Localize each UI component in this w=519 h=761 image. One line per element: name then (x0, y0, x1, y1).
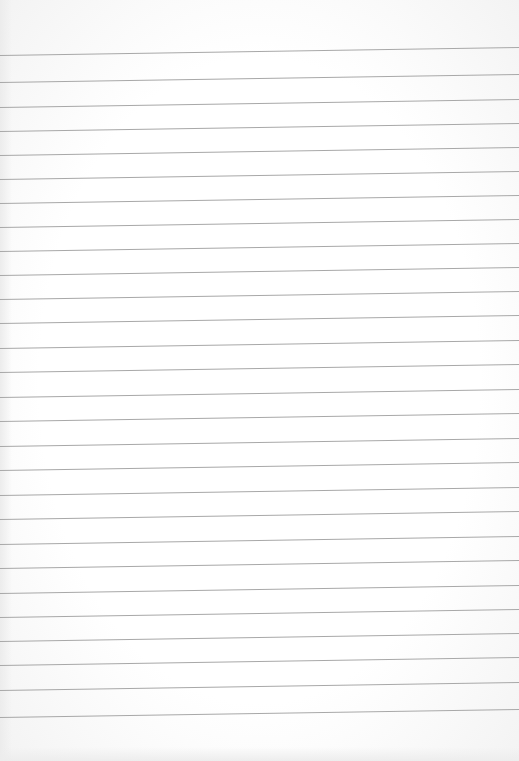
ruled-line (0, 683, 519, 691)
ruled-line (0, 414, 519, 422)
ruled-line (0, 244, 519, 252)
ruled-line (0, 124, 519, 132)
ruled-line (0, 634, 519, 642)
ruled-paper-page (0, 0, 519, 761)
ruled-line (0, 390, 519, 398)
ruled-line (0, 439, 519, 447)
ruled-line (0, 463, 519, 471)
ruled-line (0, 100, 519, 108)
ruled-line (0, 561, 519, 569)
ruled-line (0, 537, 519, 545)
ruled-line (0, 512, 519, 520)
ruled-line (0, 75, 519, 83)
ruled-line (0, 316, 519, 324)
ruled-line (0, 196, 519, 204)
ruled-line (0, 268, 519, 276)
ruled-line (0, 658, 519, 666)
ruled-line (0, 48, 519, 56)
ruled-line (0, 148, 519, 156)
ruled-line (0, 710, 519, 718)
ruled-line (0, 610, 519, 618)
ruled-line (0, 172, 519, 180)
ruled-line (0, 292, 519, 300)
ruled-line (0, 365, 519, 373)
ruled-line (0, 488, 519, 496)
ruled-lines (0, 0, 519, 761)
ruled-line (0, 220, 519, 228)
ruled-line (0, 341, 519, 349)
ruled-line (0, 586, 519, 594)
